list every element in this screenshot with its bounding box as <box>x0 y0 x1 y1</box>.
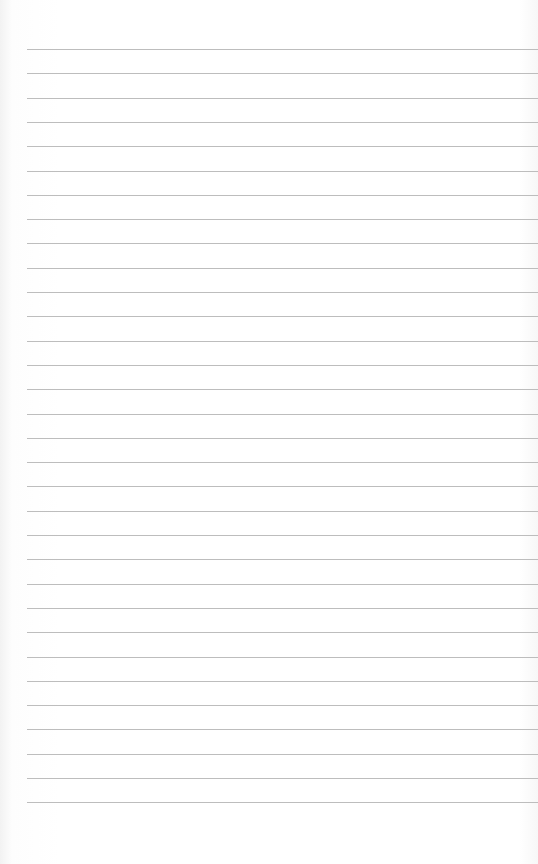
ruled-line <box>27 98 538 99</box>
ruled-line <box>27 365 538 366</box>
ruled-line <box>27 195 538 196</box>
ruled-line <box>27 559 538 560</box>
ruled-line <box>27 268 538 269</box>
ruled-line <box>27 73 538 74</box>
ruled-line <box>27 414 538 415</box>
ruled-line <box>27 171 538 172</box>
ruled-line <box>27 681 538 682</box>
ruled-line <box>27 778 538 779</box>
ruled-line <box>27 535 538 536</box>
ruled-line <box>27 146 538 147</box>
ruled-line <box>27 486 538 487</box>
ruled-line <box>27 341 538 342</box>
ruled-line <box>27 49 538 50</box>
ruled-line <box>27 389 538 390</box>
ruled-line <box>27 292 538 293</box>
ruled-line <box>27 608 538 609</box>
ruled-line <box>27 632 538 633</box>
ruled-line <box>27 243 538 244</box>
ruled-line <box>27 511 538 512</box>
ruled-line <box>27 584 538 585</box>
ruled-line <box>27 657 538 658</box>
ruled-line <box>27 705 538 706</box>
ruled-line <box>27 438 538 439</box>
ruled-line <box>27 802 538 803</box>
ruled-line <box>27 462 538 463</box>
ruled-line <box>27 729 538 730</box>
ruled-line <box>27 122 538 123</box>
ruled-line <box>27 219 538 220</box>
ruled-line <box>27 754 538 755</box>
lined-paper-sheet <box>0 0 538 864</box>
ruled-line <box>27 316 538 317</box>
